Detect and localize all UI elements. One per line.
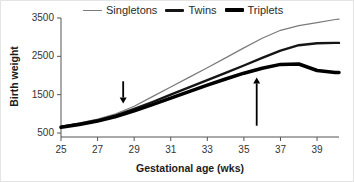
x-tick-label: 35	[238, 144, 250, 155]
legend-label-twins: Twins	[188, 4, 216, 16]
twins-line-icon	[165, 9, 184, 12]
birthweight-figure: 5001500250035002527293133353739 Singleto…	[0, 0, 354, 182]
triplet-plateau-arrow-head	[253, 77, 260, 83]
x-tick-label: 31	[165, 144, 177, 155]
legend-item-triplets: Triplets	[225, 4, 284, 16]
series-lines	[61, 19, 339, 127]
x-tick-label: 37	[275, 144, 287, 155]
legend-label-singletons: Singletons	[106, 4, 157, 16]
series-line-twins	[61, 43, 339, 127]
birthweight-chart-canvas: 5001500250035002527293133353739	[1, 1, 354, 182]
legend-item-twins: Twins	[165, 4, 216, 16]
y-tick-label: 2500	[32, 50, 55, 61]
legend-item-singletons: Singletons	[83, 4, 157, 16]
x-tick-label: 25	[55, 144, 67, 155]
x-axis-title: Gestational age (wks)	[51, 162, 329, 174]
y-tick-label: 1500	[32, 89, 55, 100]
y-tick-label: 500	[37, 127, 54, 138]
legend-label-triplets: Triplets	[248, 4, 284, 16]
legend: Singletons Twins Triplets	[83, 4, 283, 16]
y-tick-label: 3500	[32, 12, 55, 23]
x-tick-label: 39	[311, 144, 323, 155]
divergence-arrow-head	[120, 97, 127, 103]
triplets-line-icon	[225, 8, 244, 12]
y-axis-title: Birth weight	[8, 27, 21, 127]
singletons-line-icon	[83, 10, 102, 11]
annotation-arrows	[120, 77, 261, 125]
x-tick-label: 33	[202, 144, 214, 155]
x-tick-label: 29	[129, 144, 141, 155]
x-tick-label: 27	[92, 144, 104, 155]
series-line-singletons	[61, 19, 339, 126]
